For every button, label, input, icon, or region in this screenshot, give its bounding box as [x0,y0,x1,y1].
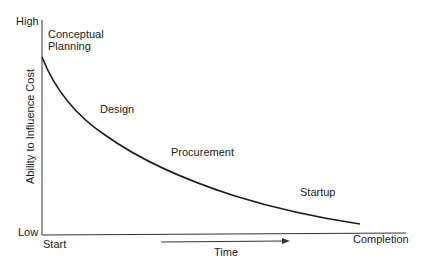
phase-startup-label: Startup [300,186,335,198]
phase-conceptual-label-line2: Planning [48,40,91,52]
time-arrow-icon [282,238,290,244]
y-low-label: Low [18,226,38,238]
cost-influence-diagram: High Low Ability to Influence Cost Start… [0,0,423,269]
x-end-label: Completion [353,233,409,245]
x-axis-title: Time [214,246,238,258]
x-start-label: Start [43,238,66,250]
time-arrow-shaft [161,241,284,242]
x-axis [42,233,406,235]
phase-design-label: Design [100,103,134,115]
phase-conceptual-label-line1: Conceptual [48,28,104,40]
cost-influence-curve [42,57,360,224]
y-high-label: High [16,15,39,27]
y-axis-title: Ability to Influence Cost [24,69,36,184]
phase-procurement-label: Procurement [171,146,234,158]
